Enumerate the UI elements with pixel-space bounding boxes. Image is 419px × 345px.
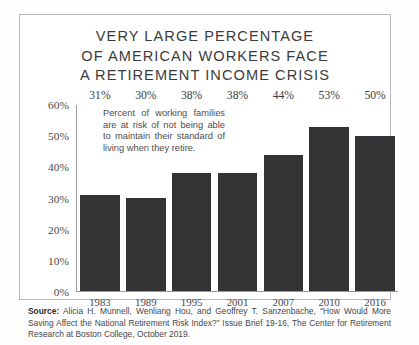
chart-card: VERY LARGE PERCENTAGE OF AMERICAN WORKER… [19,14,391,300]
y-axis-tick-label: 0% [54,286,69,298]
bar-value-label: 30% [135,89,156,102]
bar-slot: 50% [355,105,394,291]
bar-slot: 30% [126,105,165,291]
bar-value-label: 31% [89,89,110,102]
source-label: Source: [28,306,59,316]
source-citation: Source: Alicia H. Munnell, Wenliang Hou,… [28,306,391,341]
y-axis-tick-label: 60% [48,99,69,111]
bar [355,136,394,291]
y-axis-tick-label: 50% [48,130,69,142]
chart-title: VERY LARGE PERCENTAGE OF AMERICAN WORKER… [20,27,390,86]
bar [264,155,303,291]
plot-area: 60%50%40%30%20%10%0% 31%30%38%38%44%53%5… [76,105,398,292]
bar [126,198,165,291]
bar-value-label: 38% [181,89,202,102]
bar-value-label: 38% [227,89,248,102]
bar [218,173,257,291]
source-text: Alicia H. Munnell, Wenliang Hou, and Geo… [28,306,391,339]
bar-slot: 31% [80,105,119,291]
bar-slot: 38% [172,105,211,291]
y-axis-tick-label: 30% [48,193,69,205]
bar [80,195,119,291]
bar-slot: 53% [309,105,348,291]
bar-value-label: 44% [273,89,294,102]
x-axis-line [76,291,398,292]
y-axis-tick-label: 10% [48,255,69,267]
bar-slot: 44% [264,105,303,291]
bar [172,173,211,291]
bar-value-label: 53% [319,89,340,102]
bar [309,127,348,291]
bar-series: 31%30%38%38%44%53%50% [77,105,398,291]
bar-slot: 38% [218,105,257,291]
bar-value-label: 50% [364,89,385,102]
figure-container: VERY LARGE PERCENTAGE OF AMERICAN WORKER… [0,0,419,345]
y-axis-tick-label: 40% [48,161,69,173]
y-axis-tick-label: 20% [48,224,69,236]
